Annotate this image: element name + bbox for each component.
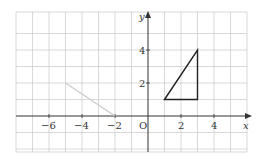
x-axis-label: x xyxy=(243,120,249,131)
x-tick-label: −4 xyxy=(74,120,89,131)
coordinate-grid: −6 −4 −2 2 4 2 4 O x y xyxy=(0,0,260,159)
x-tick-label: 2 xyxy=(178,120,184,131)
origin-label: O xyxy=(139,120,147,131)
y-tick-label: 4 xyxy=(139,45,145,56)
y-axis-label: y xyxy=(138,11,145,22)
x-axis-arrow-icon xyxy=(245,113,252,119)
x-tick-label: −2 xyxy=(107,120,122,131)
x-tick-label: −6 xyxy=(41,120,56,131)
y-tick-label: 2 xyxy=(139,78,145,89)
grid-lines xyxy=(16,12,247,152)
x-tick-label: 4 xyxy=(211,120,217,131)
